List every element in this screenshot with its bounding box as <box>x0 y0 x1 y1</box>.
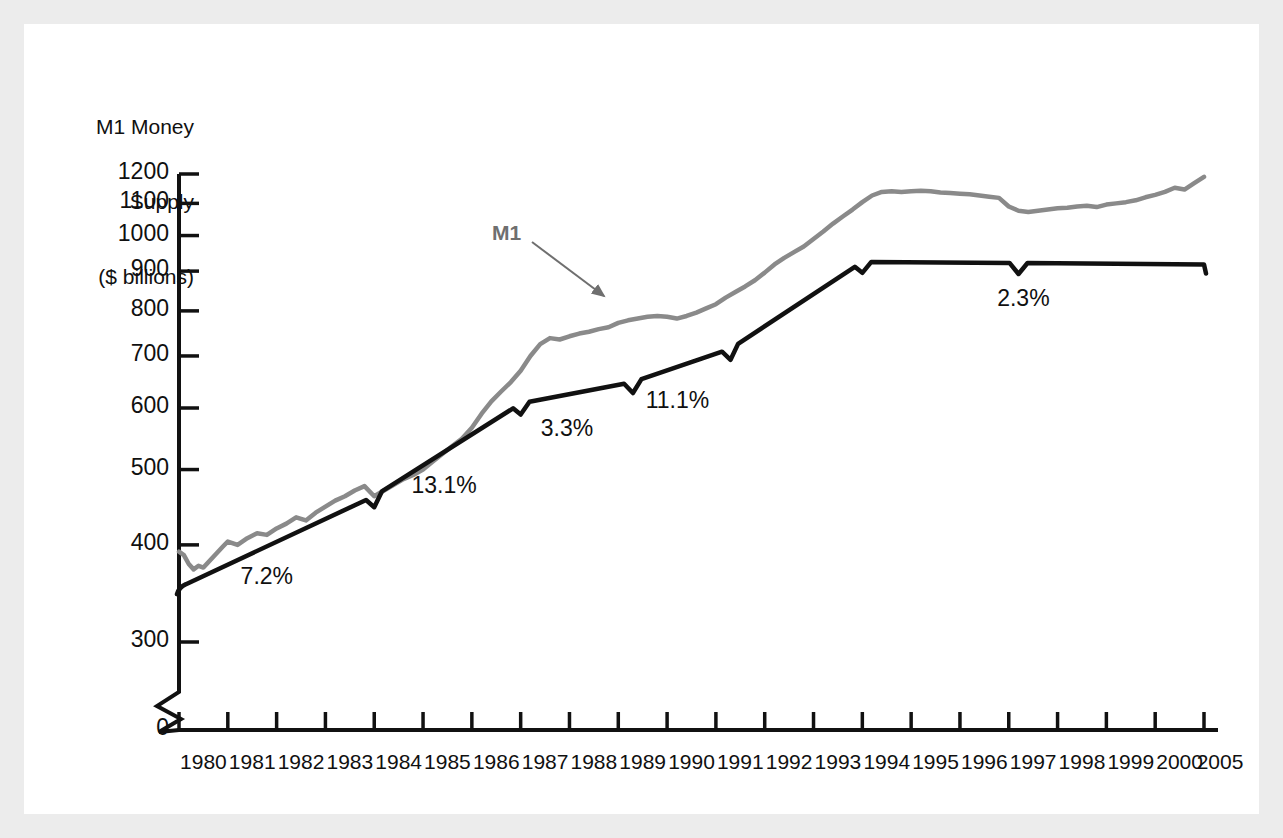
growth-rate-annotation: 11.1% <box>646 387 710 414</box>
y-axis-tick-label: 400 <box>41 529 169 556</box>
chart-plot-area <box>24 24 1259 814</box>
growth-rate-annotation: 3.3% <box>541 415 593 442</box>
y-axis-tick-label: 1100 <box>41 187 169 214</box>
y-axis-tick-label: 800 <box>41 295 169 322</box>
y-axis-tick-label: 900 <box>41 255 169 282</box>
y-axis-tick-label: 600 <box>41 392 169 419</box>
chart-panel: M1 Money Supply ($ billions) 12001100100… <box>24 24 1259 814</box>
growth-rate-annotation: 13.1% <box>411 472 476 499</box>
growth-rate-annotation: 2.3% <box>997 285 1049 312</box>
y-axis-tick-label: 0 <box>41 714 169 741</box>
series-line-trend <box>177 262 1206 594</box>
y-axis-tick-label: 700 <box>41 340 169 367</box>
series-callout-label-m1: M1 <box>492 221 521 245</box>
series-callout-arrow-m1 <box>532 242 604 296</box>
x-axis-tick-label: 2005 <box>1180 750 1260 774</box>
series-line-m1 <box>179 177 1204 570</box>
y-axis-tick-label: 1200 <box>41 158 169 185</box>
y-axis-tick-label: 500 <box>41 454 169 481</box>
growth-rate-annotation: 7.2% <box>241 563 293 590</box>
figure-container: M1 Money Supply ($ billions) 12001100100… <box>0 0 1283 838</box>
y-axis-tick-label: 1000 <box>41 220 169 247</box>
y-axis-tick-label: 300 <box>41 626 169 653</box>
